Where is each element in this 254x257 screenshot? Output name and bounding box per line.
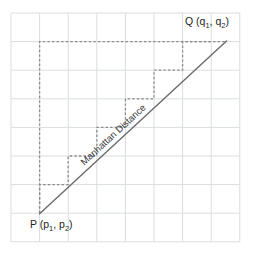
point-q-label-group: Q (q1, q2) [185, 15, 229, 30]
point-p-label-mid: , p [53, 218, 65, 230]
point-p-label-prefix: P (p [30, 218, 49, 230]
figure-canvas: Manhattan Distance Q (q1, q2) P (p1, p2) [0, 0, 254, 257]
manhattan-distance-label: Manhattan Distance [78, 102, 148, 167]
point-p-label-suffix: ) [69, 218, 73, 230]
manhattan-distance-label-group: Manhattan Distance [78, 102, 148, 167]
point-p-label-group: P (p1, p2) [30, 218, 73, 233]
manhattan-distance-figure: Manhattan Distance Q (q1, q2) P (p1, p2) [0, 0, 254, 257]
point-q-label-prefix: Q (q [185, 15, 206, 27]
point-q-label: Q (q1, q2) [185, 15, 229, 30]
point-q-label-mid: , q [210, 15, 222, 27]
point-p-label: P (p1, p2) [30, 218, 73, 233]
point-q-label-suffix: ) [225, 15, 229, 27]
